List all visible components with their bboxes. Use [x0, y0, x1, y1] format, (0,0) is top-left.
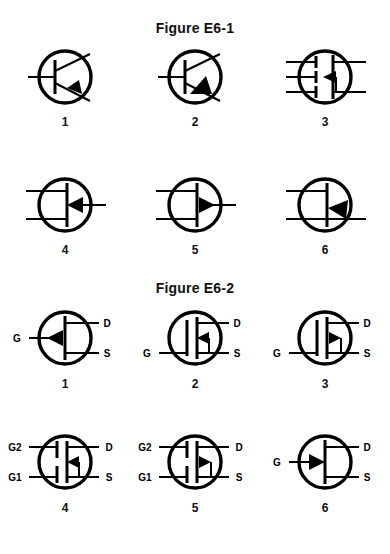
terminal-label-s: S — [104, 348, 111, 359]
symbol-number-label: 1 — [62, 377, 69, 391]
figure-e6-2-row-2: G2 G1 D S 4 G2 G1 D S — [0, 428, 390, 515]
figure-sheet: Figure E6-1 1 2 — [0, 0, 390, 554]
symbol-cell-e62-2: G D S 2 — [130, 304, 260, 391]
symbol-cell-e61-2: 2 — [130, 44, 260, 129]
terminal-label-s: S — [234, 348, 241, 359]
symbol-cell-e62-1: G D S 1 — [0, 304, 130, 391]
pnp-bipolar-transistor-symbol — [140, 44, 250, 114]
symbol-cell-e61-1: 1 — [0, 44, 130, 129]
n-channel-jfet-gds-symbol: G D S — [3, 304, 127, 376]
p-channel-mosfet-gds-symbol: G D S — [263, 304, 387, 376]
terminal-label-g: G — [273, 348, 281, 359]
figure-e6-2-row-1: G D S 1 G D S 2 — [0, 304, 390, 391]
terminal-label-d: D — [105, 442, 112, 453]
p-channel-jfet-symbol — [140, 172, 250, 242]
symbol-number-label: 6 — [322, 501, 329, 515]
terminal-label-g2: G2 — [8, 442, 22, 453]
p-channel-jfet-gds-symbol: G D S — [263, 428, 387, 500]
symbol-number-label: 5 — [192, 243, 199, 257]
terminal-label-d: D — [235, 442, 242, 453]
symbol-cell-e61-5: 5 — [130, 172, 260, 257]
symbol-cell-e62-4: G2 G1 D S 4 — [0, 428, 130, 515]
terminal-label-g1: G1 — [8, 472, 22, 483]
terminal-label-g: G — [273, 457, 281, 468]
terminal-label-g: G — [143, 348, 151, 359]
symbol-number-label: 2 — [192, 377, 199, 391]
figure-title-e6-1: Figure E6-1 — [0, 20, 390, 36]
terminal-label-g1: G1 — [138, 472, 152, 483]
terminal-label-s: S — [236, 472, 243, 483]
symbol-number-label: 3 — [322, 115, 329, 129]
symbol-number-label: 2 — [192, 115, 199, 129]
symbol-cell-e62-5: G2 G1 D S 5 — [130, 428, 260, 515]
terminal-label-d: D — [363, 442, 370, 453]
figure-e6-1-row-2: 4 5 6 — [0, 172, 390, 257]
symbol-number-label: 3 — [322, 377, 329, 391]
figure-title-e6-2: Figure E6-2 — [0, 280, 390, 296]
symbol-cell-e61-6: 6 — [260, 172, 390, 257]
symbol-number-label: 5 — [192, 501, 199, 515]
npn-bipolar-transistor-symbol — [10, 44, 120, 114]
symbol-cell-e62-6: G D S 6 — [260, 428, 390, 515]
symbol-number-label: 1 — [62, 115, 69, 129]
dual-gate-p-channel-mosfet-symbol: G2 G1 D S — [133, 428, 257, 500]
symbol-cell-e61-3: 3 — [260, 44, 390, 129]
terminal-label-d: D — [103, 318, 110, 329]
terminal-label-d: D — [233, 318, 240, 329]
terminal-label-s: S — [106, 472, 113, 483]
terminal-label-g: G — [13, 333, 21, 344]
symbol-cell-e62-3: G D S 3 — [260, 304, 390, 391]
unijunction-transistor-symbol — [270, 172, 380, 242]
symbol-number-label: 4 — [62, 243, 69, 257]
terminal-label-s: S — [364, 348, 371, 359]
n-channel-mosfet-gds-symbol: G D S — [133, 304, 257, 376]
dual-gate-n-channel-mosfet-symbol: G2 G1 D S — [3, 428, 127, 500]
figure-e6-1-row-1: 1 2 — [0, 44, 390, 129]
n-channel-mosfet-symbol — [270, 44, 380, 114]
terminal-label-s: S — [364, 472, 371, 483]
symbol-number-label: 4 — [62, 501, 69, 515]
terminal-label-d: D — [363, 318, 370, 329]
symbol-cell-e61-4: 4 — [0, 172, 130, 257]
terminal-label-g2: G2 — [138, 442, 152, 453]
symbol-number-label: 6 — [322, 243, 329, 257]
n-channel-jfet-symbol — [10, 172, 120, 242]
